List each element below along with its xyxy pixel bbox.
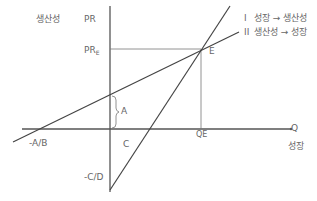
legend-item-ii: II생산성 → 성장 [244,28,307,42]
legend-item-i: I성장 → 생산성 [244,14,307,28]
line-ii [13,32,239,142]
neg-c-over-d-label: -C/D [84,173,104,182]
equilibrium-label: E [209,47,215,56]
brace-a [112,96,119,128]
y-axis-title: 생산성 [36,15,60,24]
qe-label: QE [196,131,207,139]
y-axis-symbol: PR [84,15,96,24]
intercept-c-label: C [123,140,129,149]
line-i [110,6,230,190]
intercept-a-label: A [121,107,127,116]
pr-e-label: PRE [84,46,99,56]
neg-a-over-b-label: -A/B [29,139,47,148]
legend: I성장 → 생산성 II생산성 → 성장 [244,14,307,42]
x-axis-symbol: Q [291,124,298,133]
x-axis-title: 성장 [288,142,304,151]
